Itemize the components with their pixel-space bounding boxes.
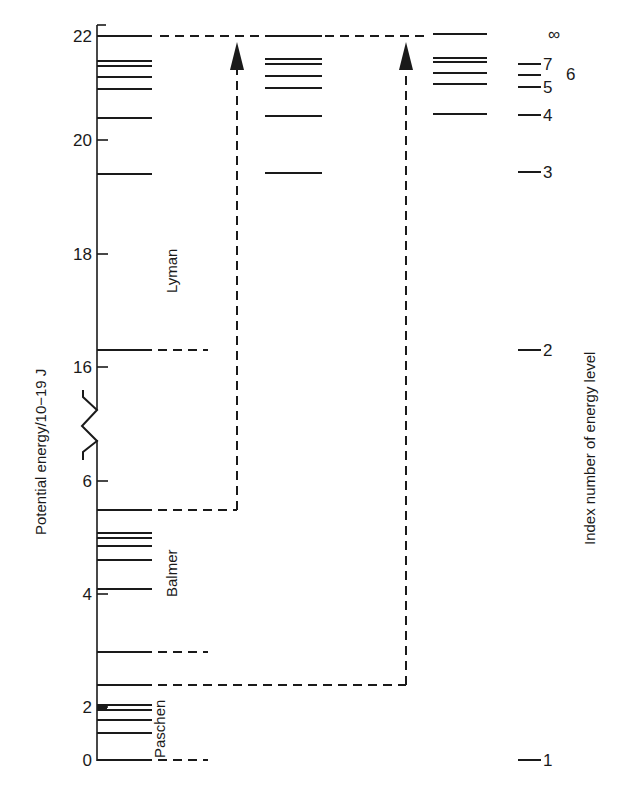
- level-index-label: 1: [543, 751, 552, 770]
- level-index-label: 3: [543, 163, 552, 182]
- energy-level-index: 1234567∞: [518, 25, 575, 770]
- series-label-paschen: Paschen: [151, 700, 168, 758]
- series-label-lyman: Lyman: [163, 249, 180, 293]
- y-tick-label: 18: [73, 245, 92, 264]
- level-index-label: ∞: [548, 25, 560, 44]
- y-tick-label: 6: [83, 472, 92, 491]
- y-tick-label: 16: [73, 358, 92, 377]
- y-axis: [97, 25, 106, 761]
- middle-column-levels: [265, 36, 322, 173]
- y-axis-title: Potential energy/10−19 J: [32, 369, 49, 535]
- y-tick-label: 4: [83, 585, 92, 604]
- y-tick-label: 20: [73, 131, 92, 150]
- energy-level-diagram: 222018166420 1234567∞ Lyman Balmer Pasch…: [0, 0, 622, 790]
- level-index-label: 2: [543, 341, 552, 360]
- y-tick-label: 0: [83, 751, 92, 770]
- arrow-up-icon: [230, 42, 244, 70]
- left-column-levels: [97, 36, 152, 760]
- arrowheads: [230, 42, 413, 70]
- y-tick-label: 22: [73, 27, 92, 46]
- y-tick-label: 2: [83, 698, 92, 717]
- dashed-connectors: [158, 36, 430, 760]
- level-index-label: 5: [543, 78, 552, 97]
- axis-break-icon: [82, 390, 97, 460]
- series-label-balmer: Balmer: [163, 549, 180, 597]
- y2-axis-title: Index number of energy level: [581, 352, 598, 545]
- level-index-label: 6: [566, 65, 575, 84]
- arrow-up-icon: [399, 42, 413, 70]
- right-column-levels: [433, 34, 487, 114]
- level-index-label: 4: [543, 106, 552, 125]
- y-axis-ticks: 222018166420: [73, 27, 108, 770]
- level-index-label: 7: [543, 55, 552, 74]
